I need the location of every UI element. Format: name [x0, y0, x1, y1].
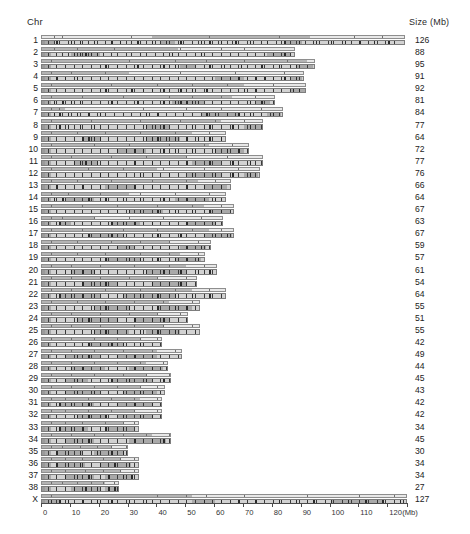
physical-map-bar[interactable] [41, 324, 200, 328]
marker-map-bar[interactable] [41, 426, 139, 432]
marker-map-bar[interactable] [41, 329, 200, 335]
physical-map-bar[interactable] [41, 240, 211, 244]
physical-map-bar[interactable] [41, 119, 263, 123]
chromosome-bar-group[interactable] [41, 457, 139, 469]
chromosome-bar-group[interactable] [41, 143, 249, 155]
chromosome-bar-group[interactable] [41, 384, 165, 396]
marker-map-bar[interactable] [41, 136, 226, 142]
marker-map-bar[interactable] [41, 390, 165, 396]
marker-map-bar[interactable] [41, 474, 139, 480]
physical-map-bar[interactable] [41, 35, 405, 39]
physical-map-bar[interactable] [41, 252, 205, 256]
chromosome-bar-group[interactable] [41, 82, 306, 94]
marker-map-bar[interactable] [41, 281, 197, 287]
physical-map-bar[interactable] [41, 300, 200, 304]
marker-map-bar[interactable] [41, 342, 162, 348]
marker-map-bar[interactable] [41, 317, 188, 323]
physical-map-bar[interactable] [41, 143, 249, 147]
chromosome-bar-group[interactable] [41, 227, 234, 239]
marker-map-bar[interactable] [41, 233, 234, 239]
marker-map-bar[interactable] [41, 100, 275, 106]
marker-map-bar[interactable] [41, 209, 234, 215]
physical-map-bar[interactable] [41, 179, 231, 183]
chromosome-bar-group[interactable] [41, 421, 139, 433]
physical-map-bar[interactable] [41, 95, 275, 99]
marker-map-bar[interactable] [41, 52, 295, 58]
chromosome-bar-group[interactable] [41, 58, 315, 70]
chromosome-bar-group[interactable] [41, 288, 226, 300]
chromosome-bar-group[interactable] [41, 433, 171, 445]
marker-map-bar[interactable] [41, 76, 304, 82]
chromosome-bar-group[interactable] [41, 119, 263, 131]
physical-map-bar[interactable] [41, 228, 234, 232]
chromosome-bar-group[interactable] [41, 239, 211, 251]
physical-map-bar[interactable] [41, 71, 304, 75]
chromosome-bar-group[interactable] [41, 106, 283, 118]
marker-map-bar[interactable] [41, 40, 405, 46]
chromosome-bar-group[interactable] [41, 396, 162, 408]
physical-map-bar[interactable] [41, 276, 197, 280]
chromosome-bar-group[interactable] [41, 46, 295, 58]
chromosome-bar-group[interactable] [41, 324, 200, 336]
marker-map-bar[interactable] [41, 148, 249, 154]
marker-map-bar[interactable] [41, 245, 211, 251]
physical-map-bar[interactable] [41, 155, 263, 159]
physical-map-bar[interactable] [41, 131, 226, 135]
marker-map-bar[interactable] [41, 438, 171, 444]
marker-map-bar[interactable] [41, 124, 263, 130]
chromosome-bar-group[interactable] [41, 372, 171, 384]
physical-map-bar[interactable] [41, 469, 139, 473]
chromosome-bar-group[interactable] [41, 481, 119, 493]
marker-map-bar[interactable] [41, 184, 231, 190]
chromosome-bar-group[interactable] [41, 276, 197, 288]
physical-map-bar[interactable] [41, 409, 162, 413]
physical-map-bar[interactable] [41, 288, 226, 292]
physical-map-bar[interactable] [41, 494, 407, 498]
chromosome-bar-group[interactable] [41, 203, 234, 215]
chromosome-bar-group[interactable] [41, 360, 168, 372]
marker-map-bar[interactable] [41, 88, 306, 94]
physical-map-bar[interactable] [41, 192, 226, 196]
physical-map-bar[interactable] [41, 312, 188, 316]
physical-map-bar[interactable] [41, 385, 165, 389]
physical-map-bar[interactable] [41, 457, 139, 461]
physical-map-bar[interactable] [41, 481, 119, 485]
chromosome-bar-group[interactable] [41, 155, 263, 167]
marker-map-bar[interactable] [41, 64, 315, 70]
chromosome-bar-group[interactable] [41, 264, 217, 276]
marker-map-bar[interactable] [41, 221, 223, 227]
chromosome-bar-group[interactable] [41, 34, 405, 46]
chromosome-bar-group[interactable] [41, 179, 231, 191]
physical-map-bar[interactable] [41, 107, 283, 111]
marker-map-bar[interactable] [41, 462, 139, 468]
physical-map-bar[interactable] [41, 433, 171, 437]
chromosome-bar-group[interactable] [41, 445, 128, 457]
physical-map-bar[interactable] [41, 264, 217, 268]
marker-map-bar[interactable] [41, 172, 260, 178]
physical-map-bar[interactable] [41, 216, 223, 220]
chromosome-bar-group[interactable] [41, 167, 260, 179]
physical-map-bar[interactable] [41, 361, 168, 365]
marker-map-bar[interactable] [41, 160, 263, 166]
marker-map-bar[interactable] [41, 450, 128, 456]
marker-map-bar[interactable] [41, 354, 182, 360]
marker-map-bar[interactable] [41, 486, 119, 492]
physical-map-bar[interactable] [41, 47, 295, 51]
physical-map-bar[interactable] [41, 167, 260, 171]
marker-map-bar[interactable] [41, 366, 168, 372]
physical-map-bar[interactable] [41, 397, 162, 401]
chromosome-bar-group[interactable] [41, 251, 205, 263]
chromosome-bar-group[interactable] [41, 191, 226, 203]
marker-map-bar[interactable] [41, 293, 226, 299]
chromosome-bar-group[interactable] [41, 300, 200, 312]
marker-map-bar[interactable] [41, 112, 283, 118]
physical-map-bar[interactable] [41, 445, 128, 449]
physical-map-bar[interactable] [41, 337, 162, 341]
chromosome-bar-group[interactable] [41, 215, 223, 227]
marker-map-bar[interactable] [41, 269, 217, 275]
chromosome-bar-group[interactable] [41, 408, 162, 420]
chromosome-bar-group[interactable] [41, 70, 304, 82]
marker-map-bar[interactable] [41, 402, 162, 408]
physical-map-bar[interactable] [41, 421, 139, 425]
physical-map-bar[interactable] [41, 59, 315, 63]
